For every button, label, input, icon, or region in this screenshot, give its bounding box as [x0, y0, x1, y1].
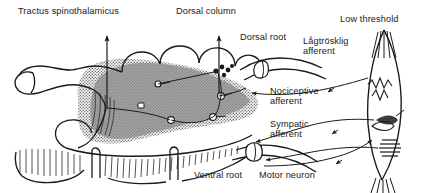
label-nociceptive-afferent-line2: afferent: [270, 96, 302, 106]
label-motor-neuron: Motor neuron: [259, 170, 315, 181]
annulospiral-ending: [368, 78, 392, 100]
motor-end-plate: [379, 140, 401, 156]
label-dorsal-root: Dorsal root: [240, 32, 286, 43]
spinal-cord-diagram-svg: [0, 0, 423, 193]
label-sympatic-afferent-line2: afferent: [270, 129, 302, 139]
dorsal-root-trunk: [240, 58, 326, 80]
label-tractus-spinothalamicus: Tractus spinothalamicus: [18, 6, 119, 17]
label-sympatic-afferent-line1: Sympatic: [270, 119, 309, 129]
gray-matter-butterfly: [78, 59, 258, 144]
label-dorsal-column: Dorsal column: [176, 6, 236, 17]
label-low-threshold: Low threshold: [340, 14, 399, 25]
label-lagtrosklig-afferent-line2: afferent: [303, 46, 335, 56]
spindle-fibers-bottom: [371, 178, 395, 193]
muscle-spindle-organ: [368, 30, 404, 193]
label-lagtrosklig-afferent-line1: Lågtrösklig: [303, 36, 349, 46]
label-nociceptive-afferent-line1: Nociceptive: [270, 86, 319, 96]
ventral-root-trunk: [232, 142, 318, 172]
anatomical-figure: Tractus spinothalamicus Dorsal column Do…: [0, 0, 423, 193]
central-canal: [138, 103, 144, 108]
label-ventral-root: Ventral root: [194, 170, 242, 181]
